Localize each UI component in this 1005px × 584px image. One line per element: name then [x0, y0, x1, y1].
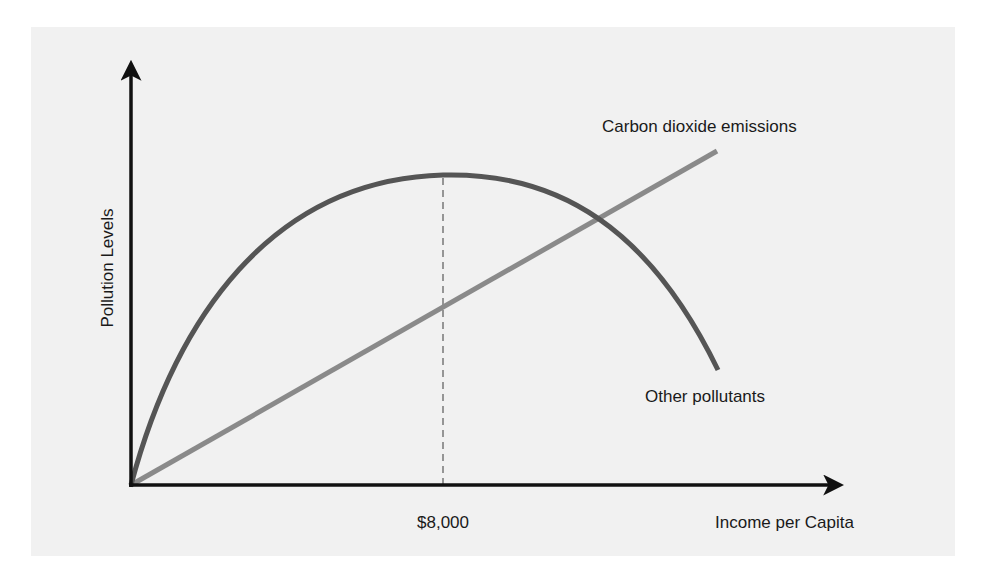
co2-series-label: Carbon dioxide emissions	[602, 117, 797, 136]
x-tick-label-8000: $8,000	[417, 513, 469, 532]
y-axis-label: Pollution Levels	[98, 208, 117, 327]
series-co2-line	[131, 151, 717, 485]
x-axis-label: Income per Capita	[715, 513, 854, 532]
other-pollutants-label: Other pollutants	[645, 387, 765, 406]
series-other-pollutants-curve	[131, 175, 718, 485]
chart: Pollution Levels Income per Capita $8,00…	[0, 0, 1005, 584]
